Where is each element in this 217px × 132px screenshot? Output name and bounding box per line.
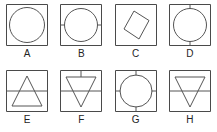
shape-panel-g[interactable]: G (109, 66, 163, 132)
shape-panel-d[interactable]: D (163, 0, 217, 66)
panel-h-label: H (186, 114, 193, 126)
panel-a-circle (10, 8, 45, 43)
panel-b-square (61, 5, 102, 46)
panel-f-graphic (59, 69, 103, 113)
panel-c-graphic (114, 3, 158, 47)
panel-b-graphic (59, 3, 103, 47)
shape-panel-e[interactable]: E (0, 66, 54, 132)
panel-g-label: G (132, 114, 140, 126)
panel-f-label: F (78, 114, 84, 126)
panel-f-triangle-down (66, 77, 96, 107)
shape-figure: A B C (0, 0, 217, 132)
panel-b-circle (65, 9, 98, 42)
panel-d-circle (173, 9, 206, 42)
panel-a-square (7, 5, 48, 46)
panel-c-rhombus (124, 11, 149, 39)
panel-d-label: D (186, 48, 193, 60)
shape-panel-b[interactable]: B (54, 0, 108, 66)
panel-a-label: A (24, 48, 31, 60)
shape-panel-c[interactable]: C (109, 0, 163, 66)
shape-panel-a[interactable]: A (0, 0, 54, 66)
panel-b-label: B (78, 48, 85, 60)
panel-e-label: E (24, 114, 31, 126)
panel-h-triangle-down (175, 77, 205, 107)
panel-row-top: A B C (0, 0, 217, 66)
panel-row-bottom: E F (0, 66, 217, 132)
shape-panel-f[interactable]: F (54, 66, 108, 132)
panel-g-graphic (114, 69, 158, 113)
panel-d-graphic (168, 3, 212, 47)
shape-panel-h[interactable]: H (163, 66, 217, 132)
panel-d-square (169, 5, 210, 46)
panel-a-graphic (5, 3, 49, 47)
panel-c-label: C (132, 48, 139, 60)
panel-g-square (115, 71, 156, 112)
panel-g-circle (120, 75, 152, 107)
panel-h-graphic (168, 69, 212, 113)
panel-c-square (115, 5, 156, 46)
panel-e-graphic (5, 69, 49, 113)
